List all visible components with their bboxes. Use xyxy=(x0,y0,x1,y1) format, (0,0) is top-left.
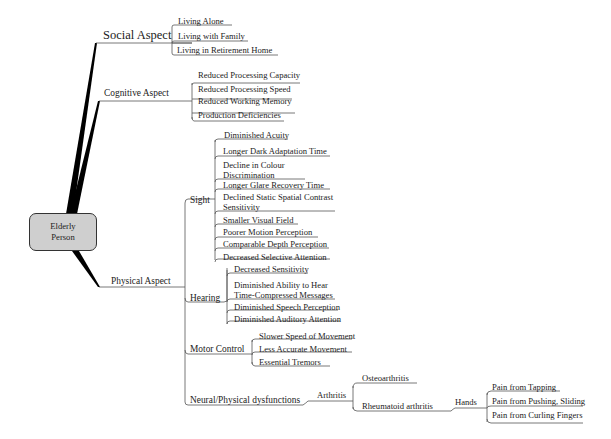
node-text-line: Diminished Ability to Hear xyxy=(234,280,333,290)
root-node-elderly-person[interactable]: Elderly Person xyxy=(29,213,97,251)
node-reduced-processing-capacity[interactable]: Reduced Processing Capacity xyxy=(198,70,300,80)
root-label-line1: Elderly xyxy=(50,221,75,232)
node-living-in-retirement-home[interactable]: Living in Retirement Home xyxy=(177,45,272,55)
node-text-line: Declined Static Spatial Contrast xyxy=(223,192,333,202)
node-arthritis[interactable]: Arthritis xyxy=(317,390,346,400)
node-longer-dark-adaptation-time[interactable]: Longer Dark Adaptation Time xyxy=(223,146,327,156)
node-text-line: Time-Compressed Messages xyxy=(234,290,333,300)
node-social-aspect[interactable]: Social Aspect xyxy=(103,28,171,42)
node-reduced-working-memory[interactable]: Reduced Working Memory xyxy=(198,96,292,106)
node-hearing[interactable]: Hearing xyxy=(190,293,220,303)
node-less-accurate-movement[interactable]: Less Accurate Movement xyxy=(259,344,347,354)
node-diminished-ability-to-hear-time-compressed-messages[interactable]: Diminished Ability to Hear Time-Compress… xyxy=(234,280,333,300)
node-text-line: Discrimination xyxy=(223,170,285,180)
node-decreased-selective-attention[interactable]: Decreased Selective Attention xyxy=(223,252,327,262)
node-decreased-sensitivity[interactable]: Decreased Sensitivity xyxy=(234,264,309,274)
node-sight[interactable]: Sight xyxy=(190,195,210,205)
node-neural-physical-dysfunctions[interactable]: Neural/Physical dysfunctions xyxy=(190,395,300,405)
branch-physical xyxy=(72,251,100,287)
node-longer-glare-recovery-time[interactable]: Longer Glare Recovery Time xyxy=(223,180,324,190)
node-diminished-speech-perception[interactable]: Diminished Speech Perception xyxy=(234,302,340,312)
node-smaller-visual-field[interactable]: Smaller Visual Field xyxy=(223,215,293,225)
node-diminished-auditory-attention[interactable]: Diminished Auditory Attention xyxy=(234,314,341,324)
node-slower-speed-of-movement[interactable]: Slower Speed of Movement xyxy=(259,331,355,341)
node-hands[interactable]: Hands xyxy=(455,397,477,407)
node-motor-control[interactable]: Motor Control xyxy=(190,344,244,354)
node-diminished-acuity[interactable]: Diminished Acuity xyxy=(224,130,289,140)
node-living-with-family[interactable]: Living with Family xyxy=(178,31,245,41)
node-physical-aspect[interactable]: Physical Aspect xyxy=(111,276,171,286)
node-cognitive-aspect[interactable]: Cognitive Aspect xyxy=(104,88,169,98)
node-text-line: Sensitivity xyxy=(223,202,333,212)
node-rheumatoid-arthritis[interactable]: Rheumatoid arthritis xyxy=(362,401,433,411)
root-label-line2: Person xyxy=(50,232,75,243)
node-production-deficiencies[interactable]: Production Deficiencies xyxy=(198,110,281,120)
node-living-alone[interactable]: Living Alone xyxy=(178,16,224,26)
node-text-line: Decline in Colour xyxy=(223,160,285,170)
node-pain-from-tapping[interactable]: Pain from Tapping xyxy=(492,382,556,392)
node-poorer-motion-perception[interactable]: Poorer Motion Perception xyxy=(223,227,312,237)
node-decline-in-colour-discrimination[interactable]: Decline in Colour Discrimination xyxy=(223,160,285,180)
node-essential-tremors[interactable]: Essential Tremors xyxy=(259,357,321,367)
node-osteoarthritis[interactable]: Osteoarthritis xyxy=(362,373,409,383)
node-comparable-depth-perception[interactable]: Comparable Depth Perception xyxy=(223,239,327,249)
node-pain-from-pushing-sliding[interactable]: Pain from Pushing, Sliding xyxy=(492,396,585,406)
node-declined-static-spatial-contrast-sensitivity[interactable]: Declined Static Spatial Contrast Sensiti… xyxy=(223,192,333,212)
node-pain-from-curling-fingers[interactable]: Pain from Curling Fingers xyxy=(492,410,582,420)
node-reduced-processing-speed[interactable]: Reduced Processing Speed xyxy=(198,84,291,94)
